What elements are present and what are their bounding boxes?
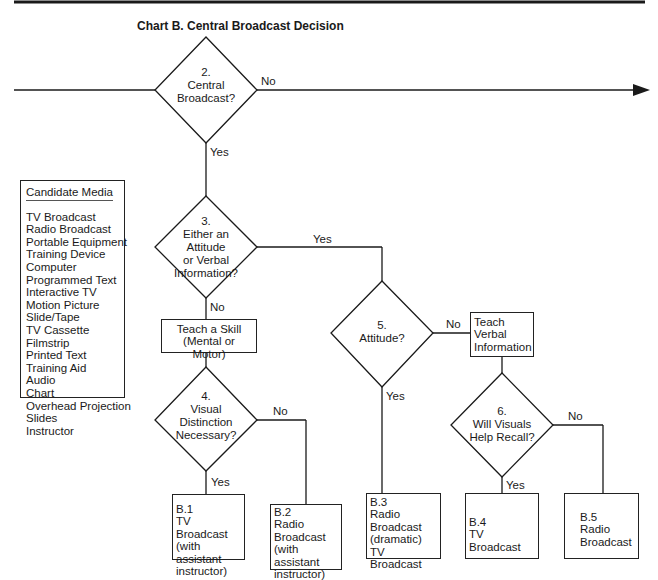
list-item: Filmstrip xyxy=(26,337,124,350)
teach-skill-box: Teach a Skill (Mental or Motor) xyxy=(161,319,257,353)
edge-label-no: No xyxy=(446,318,461,331)
list-item: Portable Equipment xyxy=(26,236,124,249)
edge-label-no: No xyxy=(568,410,583,423)
list-item: Slide/Tape xyxy=(26,311,124,324)
list-item: Programmed Text xyxy=(26,274,124,287)
candidate-media-list: TV Broadcast Radio Broadcast Portable Eq… xyxy=(26,211,124,438)
edge-label-yes: Yes xyxy=(211,476,230,489)
edge-label-no: No xyxy=(261,75,276,88)
chart-title: Chart B. Central Broadcast Decision xyxy=(137,19,344,33)
list-item: Chart xyxy=(26,387,124,400)
edge-label-yes: Yes xyxy=(386,390,405,403)
list-item: Training Aid xyxy=(26,362,124,375)
teach-verbal-box: Teach Verbal Information xyxy=(470,312,534,357)
outcome-b3-box: B.3 Radio Broadcast (dramatic) TV Broadc… xyxy=(366,493,441,559)
list-item: Instructor xyxy=(26,425,124,438)
outcome-b4-box: B.4 TV Broadcast xyxy=(465,493,539,559)
list-item: Printed Text xyxy=(26,349,124,362)
decision-5-label: 5. Attitude? xyxy=(342,319,422,345)
outcome-b5-box: B.5 Radio Broadcast xyxy=(564,493,639,559)
edge-label-no: No xyxy=(210,301,225,314)
decision-3-label: 3. Either an Attitude or Verbal Informat… xyxy=(161,215,251,280)
list-item: Audio xyxy=(26,374,124,387)
decision-4-label: 4. Visual Distinction Necessary? xyxy=(161,390,251,442)
list-item: Interactive TV xyxy=(26,286,124,299)
list-item: TV Cassette xyxy=(26,324,124,337)
decision-2-label: 2. Central Broadcast? xyxy=(166,66,246,105)
candidate-media-header: Candidate Media xyxy=(26,186,113,201)
list-item: Slides xyxy=(26,412,124,425)
outcome-b1-box: B.1 TV Broadcast (with assistant instruc… xyxy=(172,494,245,560)
edge-label-yes: Yes xyxy=(210,146,229,159)
arrow-right-icon xyxy=(633,84,650,96)
list-item: Training Device xyxy=(26,248,124,261)
list-item: Computer xyxy=(26,261,124,274)
decision-6-label: 6. Will Visuals Help Recall? xyxy=(457,405,547,444)
edge-label-yes: Yes xyxy=(506,479,525,492)
list-item: Overhead Projection xyxy=(26,400,124,413)
outcome-b2-box: B.2 Radio Broadcast (with assistant inst… xyxy=(270,504,342,570)
edge-label-no: No xyxy=(273,405,288,418)
list-item: Motion Picture xyxy=(26,299,124,312)
edge-label-yes: Yes xyxy=(313,233,332,246)
list-item: Radio Broadcast xyxy=(26,223,124,236)
list-item: TV Broadcast xyxy=(26,211,124,224)
candidate-media-box: Candidate Media TV Broadcast Radio Broad… xyxy=(20,180,125,398)
